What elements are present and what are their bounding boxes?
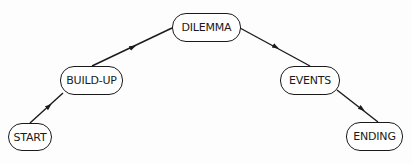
- story-arc-diagram: START BUILD-UP DILEMMA EVENTS ENDING: [0, 0, 412, 164]
- node-ending: ENDING: [346, 122, 403, 151]
- node-events: EVENTS: [280, 66, 340, 95]
- node-label: BUILD-UP: [66, 74, 117, 87]
- edge-dilemma-to-events: [240, 28, 310, 66]
- node-label: ENDING: [353, 130, 395, 143]
- edge-start-to-build-up: [30, 93, 63, 123]
- node-label: EVENTS: [289, 74, 331, 87]
- node-label: DILEMMA: [182, 21, 232, 34]
- node-build-up: BUILD-UP: [60, 66, 123, 95]
- node-start: START: [8, 123, 52, 151]
- node-dilemma: DILEMMA: [172, 13, 241, 42]
- edge-build-up-to-dilemma: [92, 28, 172, 66]
- edge-events-to-ending: [337, 90, 378, 122]
- node-label: START: [14, 131, 47, 144]
